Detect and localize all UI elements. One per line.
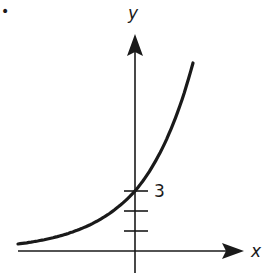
x-axis-label: x [250,241,262,261]
corner-mark: • [1,3,9,19]
graph-canvas: • x y 3 [0,0,266,273]
y-intercept-label: 3 [154,181,165,201]
y-axis-label: y [127,3,139,23]
exponential-curve [18,63,193,244]
